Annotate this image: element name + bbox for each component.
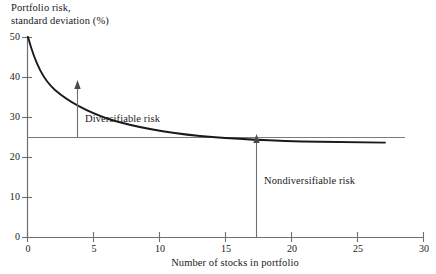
x-tick-label-0: 0 <box>18 243 38 254</box>
x-tick-label-25: 25 <box>348 243 368 254</box>
x-tick-label-15: 15 <box>216 243 236 254</box>
annotation-nondiversifiable-risk: Nondiversifiable risk <box>264 175 355 186</box>
total-risk-curve <box>28 37 385 143</box>
y-tick-label-20: 20 <box>2 151 20 162</box>
y-tick-label-30: 30 <box>2 111 20 122</box>
y-tick-label-0: 0 <box>2 231 20 242</box>
y-tick-label-50: 50 <box>2 31 20 42</box>
x-tick-label-20: 20 <box>282 243 302 254</box>
x-axis-label: Number of stocks in portfolio <box>0 257 436 268</box>
diversifiable-arrow-head <box>74 80 80 89</box>
y-tick-label-40: 40 <box>2 71 20 82</box>
diversifiable-risk-arrow <box>74 80 80 137</box>
x-tick-label-10: 10 <box>150 243 170 254</box>
y-tick-label-10: 10 <box>2 191 20 202</box>
plot-canvas <box>0 0 436 274</box>
chart-figure: Portfolio risk, standard deviation (%) <box>0 0 436 274</box>
nondiversifiable-arrow-head <box>253 134 259 143</box>
annotation-diversifiable-risk: Diversifiable risk <box>85 113 160 124</box>
nondiversifiable-risk-arrow <box>253 134 259 237</box>
x-tick-label-5: 5 <box>84 243 104 254</box>
x-tick-label-30: 30 <box>414 243 434 254</box>
